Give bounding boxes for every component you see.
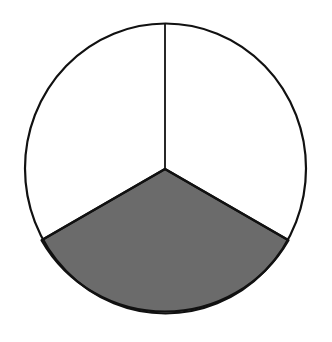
fraction-circle-diagram (0, 0, 332, 342)
shaded-sector (42, 169, 289, 312)
fraction-circle (0, 0, 332, 342)
